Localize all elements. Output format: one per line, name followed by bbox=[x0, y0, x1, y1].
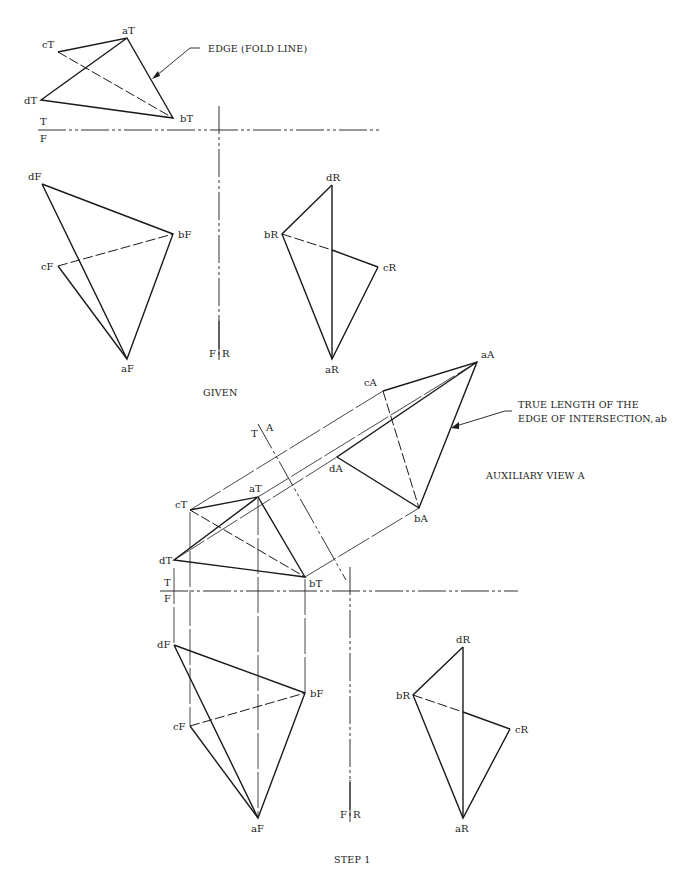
label-dA: dA bbox=[329, 463, 343, 474]
given-top-view: aT cT dT bT bbox=[24, 25, 193, 124]
given-right-edges bbox=[282, 185, 378, 359]
given-right-edge-bc-visible bbox=[332, 250, 378, 267]
label-bR: bR bbox=[264, 229, 278, 240]
fold-label-t: T bbox=[40, 116, 47, 127]
label-cR: cR bbox=[515, 724, 529, 735]
label-aA: aA bbox=[481, 349, 495, 360]
step1-fold-line-tf: T F bbox=[160, 577, 518, 604]
label-aF: aF bbox=[121, 363, 134, 374]
given-front-edge-ca bbox=[58, 266, 127, 359]
given-right-view: dR bR cR aR bbox=[264, 172, 397, 375]
given-caption: GIVEN bbox=[203, 387, 237, 398]
step1-right-edge-bc-visible bbox=[463, 712, 510, 729]
label-bT: bT bbox=[309, 578, 322, 589]
arrowhead-icon bbox=[152, 71, 160, 79]
label-aF: aF bbox=[251, 823, 264, 834]
fold-label-t: T bbox=[164, 577, 171, 588]
label-aR: aR bbox=[325, 364, 339, 375]
step1-top-hidden-edge-cb bbox=[190, 510, 305, 577]
aux-view-title: AUXILIARY VIEW A bbox=[485, 470, 585, 481]
label-bA: bA bbox=[414, 513, 428, 524]
fold-label-f: F bbox=[40, 133, 47, 144]
step1-front-edge-ca bbox=[190, 726, 258, 818]
given-figure: aT cT dT bT EDGE (FOLD LINE) T F F R bbox=[24, 25, 397, 398]
given-fold-line-tf: T F bbox=[38, 116, 382, 144]
fold-label-f: F bbox=[340, 809, 347, 820]
label-aT: aT bbox=[249, 483, 262, 494]
label-dT: dT bbox=[24, 95, 37, 106]
step1-fold-line-fr: F R bbox=[340, 567, 361, 822]
given-fold-line-fr: F R bbox=[209, 106, 230, 360]
step1-right-hidden-edge-bc bbox=[413, 695, 463, 712]
true-length-leader-line bbox=[456, 411, 512, 426]
label-dT: dT bbox=[159, 555, 172, 566]
label-cF: cF bbox=[41, 261, 54, 272]
label-dR: dR bbox=[456, 634, 470, 645]
label-dF: dF bbox=[28, 171, 41, 182]
step1-right-edges bbox=[413, 647, 510, 818]
label-cT: cT bbox=[175, 499, 188, 510]
label-cF: cF bbox=[173, 721, 186, 732]
step1-front-hidden-edge-cb bbox=[190, 693, 305, 726]
label-dR: dR bbox=[326, 172, 340, 183]
fold-label-r: R bbox=[222, 348, 230, 359]
true-length-label-line1: TRUE LENGTH OF THE bbox=[518, 399, 639, 410]
edge-fold-line-annotation: EDGE (FOLD LINE) bbox=[152, 43, 307, 79]
edge-leader-line bbox=[156, 48, 200, 76]
label-aT: aT bbox=[122, 25, 135, 36]
label-bF: bF bbox=[178, 229, 191, 240]
given-front-view: dF bF cF aF bbox=[28, 171, 191, 374]
step1-right-view: dR bR cR aR bbox=[396, 634, 529, 834]
label-dF: dF bbox=[157, 639, 170, 650]
step1-caption: STEP 1 bbox=[334, 854, 370, 865]
label-cT: cT bbox=[42, 39, 55, 50]
true-length-label-line2: EDGE OF INTERSECTION, bbox=[518, 413, 654, 424]
edge-fold-line-label: EDGE (FOLD LINE) bbox=[208, 43, 307, 54]
fold-label-r: R bbox=[353, 809, 361, 820]
step1-fold-line-ta: T A bbox=[251, 422, 346, 580]
label-aR: aR bbox=[455, 823, 469, 834]
true-length-annotation: TRUE LENGTH OF THE EDGE OF INTERSECTION,… bbox=[451, 399, 667, 429]
step1-top-view: aT cT dT bT bbox=[159, 483, 322, 589]
given-top-hidden-edge-cb bbox=[58, 52, 173, 118]
label-cA: cA bbox=[364, 377, 378, 388]
label-bT: bT bbox=[180, 113, 193, 124]
label-bR: bR bbox=[396, 690, 410, 701]
given-right-hidden-edge-bc bbox=[282, 234, 332, 250]
projection-lines-top-to-front bbox=[174, 499, 305, 818]
fold-label-a: A bbox=[265, 422, 274, 433]
step1-figure: T A aA cA dA bA TRUE LENGTH OF THE EDGE … bbox=[157, 349, 667, 865]
fold-label-f: F bbox=[209, 348, 216, 359]
aux-view-a: aA cA dA bA bbox=[329, 349, 495, 524]
step1-front-view: dF bF cF aF bbox=[157, 639, 323, 834]
fold-label-f: F bbox=[164, 593, 171, 604]
label-bF: bF bbox=[310, 688, 323, 699]
descriptive-geometry-drawing: aT cT dT bT EDGE (FOLD LINE) T F F R bbox=[0, 0, 689, 880]
label-cR: cR bbox=[383, 262, 397, 273]
given-front-hidden-edge-cb bbox=[58, 234, 173, 266]
true-length-label-ab: ab bbox=[655, 413, 667, 424]
fold-label-t: T bbox=[251, 428, 258, 439]
